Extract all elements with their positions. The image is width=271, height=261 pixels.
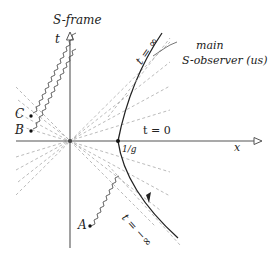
event-C-label: C [15,108,24,120]
observer-label-line1: main [196,40,224,51]
origin-point [68,139,72,143]
spacetime-diagram: S-frame t x t = ∞ t = 0 1/g t = −∞ main … [0,0,271,261]
event-B-dot [29,129,32,132]
x-axis-label: x [234,142,240,153]
t-zero-label: t = 0 [143,125,171,136]
event-A-dot [88,224,91,227]
t-axis-label: t [55,33,60,45]
observer-label-line2: S-observer (us) [182,55,268,66]
x-axis-arrow [254,138,262,145]
direction-arrow [146,192,151,203]
frame-title: S-frame [53,14,102,26]
event-C-dot [29,114,32,117]
event-A-label: A [78,219,87,231]
event-B-label: B [15,124,24,136]
one-over-g-point [116,139,120,143]
one-over-g-label: 1/g [122,145,137,154]
